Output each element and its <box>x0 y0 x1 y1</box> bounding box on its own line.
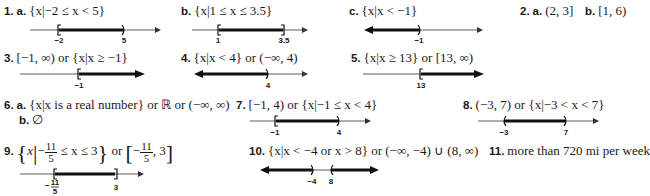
tick-label: 5 <box>122 36 127 45</box>
answer-6b: b.∅ <box>19 112 43 128</box>
problem-number: 8. <box>463 99 473 111</box>
problem-number: 7. <box>236 99 246 111</box>
number-line-3: −1 <box>20 66 150 90</box>
answer-text: [1, 6) <box>598 3 626 18</box>
part-label: a. <box>533 5 543 17</box>
answer-text: (−3, 7) or {x|−3 < x < 7} <box>476 97 605 112</box>
number-line-5: 13 <box>363 66 488 90</box>
answer-text: {x|x < −1} <box>362 3 418 18</box>
problem-number: 3. <box>4 52 14 64</box>
arrow-head <box>138 171 144 177</box>
negative-sign: − <box>37 143 44 158</box>
problem-number: 11. <box>489 145 504 157</box>
problem-number: 6. <box>4 99 14 111</box>
answer-text: ∅ <box>32 112 43 127</box>
tick-label: −1 <box>74 81 84 90</box>
answer-text: {x|x ≥ 13} or [13, ∞) <box>364 50 473 65</box>
tick-label: 3 <box>114 183 119 192</box>
tick-label-numerator: 11 <box>51 178 60 187</box>
tick-label: −3 <box>499 128 509 137</box>
interval-tail: , 3 <box>153 143 166 158</box>
answer-text: {x|x is a real number} or ℝ or (−∞, ∞) <box>29 97 229 112</box>
arrow-head-left <box>364 26 373 34</box>
answer-4: 4.{x|x < 4} or (−∞, 4) <box>181 50 298 66</box>
arrow-head-left <box>194 70 203 78</box>
tick-label: −1 <box>414 36 424 45</box>
problem-number: 10. <box>249 145 265 157</box>
answer-text: {x|x < −4 or x > 8} or (−∞, −4) ∪ (8, ∞) <box>268 143 478 158</box>
answer-6a: 6.a.{x|x is a real number} or ℝ or (−∞, … <box>4 97 230 113</box>
interval-close: ] <box>166 140 173 165</box>
tick-label: 4 <box>337 128 342 137</box>
answer-8: 8.(−3, 7) or {x|−3 < x < 7} <box>463 97 605 113</box>
part-label: b. <box>19 114 29 126</box>
inequality-tail: ≤ x ≤ 3 <box>57 143 97 158</box>
answer-1a: 1.a.{x|−2 ≤ x < 5} <box>4 3 105 19</box>
arrow-head <box>477 27 483 33</box>
problem-number: 2. <box>520 5 530 17</box>
arrow-head <box>302 27 308 33</box>
number-line-4: 4 <box>192 66 317 90</box>
number-line-9: − 11 5 3 <box>20 168 150 193</box>
part-label: b. <box>585 5 595 17</box>
tick-label: 13 <box>417 81 426 90</box>
tick-label: 1 <box>216 36 221 45</box>
answer-text: {x|x < 4} or (−∞, 4) <box>194 50 298 65</box>
problem-number: 1. <box>4 5 14 17</box>
number-line-10: −4 8 <box>258 160 383 186</box>
answer-7: 7.[−1, 4) or {x|−1 ≤ x < 4} <box>236 97 377 113</box>
tick-label: −2 <box>54 36 64 45</box>
part-label: a. <box>17 5 27 17</box>
tick-label: −1 <box>270 128 280 137</box>
answer-text: [−1, ∞) or {x|x ≥ −1} <box>17 50 128 65</box>
arrow-head-right <box>135 70 145 78</box>
fraction-denominator: 5 <box>140 153 153 164</box>
arrow-head <box>593 118 599 124</box>
interval-open: [ <box>125 140 132 165</box>
answer-10: 10.{x|x < −4 or x > 8} or (−∞, −4) ∪ (8,… <box>249 143 478 159</box>
tick-label-denominator: 5 <box>53 187 58 196</box>
problem-number: 9. <box>4 145 14 157</box>
fraction: 115 <box>140 141 153 164</box>
tick-label-negative-sign: − <box>45 181 50 190</box>
problem-number: 5. <box>351 52 361 64</box>
set-brace-open: { <box>17 140 28 165</box>
answer-1c: c.{x|x < −1} <box>349 3 417 19</box>
answer-2b: b.[1, 6) <box>585 3 626 19</box>
tick-label: −4 <box>307 177 317 186</box>
part-label: b. <box>181 5 191 17</box>
negative-sign: − <box>133 143 140 158</box>
arrow-head-right <box>370 166 379 174</box>
tick-label: 3.5 <box>278 36 290 45</box>
answer-text: more than 720 mi per week <box>507 143 650 158</box>
tick-label: 7 <box>564 128 569 137</box>
arrow-head-right <box>474 70 484 78</box>
answer-5: 5.{x|x ≥ 13} or [13, ∞) <box>351 50 473 66</box>
tick-label: 4 <box>266 81 271 90</box>
answer-text: {x|−2 ≤ x < 5} <box>29 3 105 18</box>
answer-text: (2, 3] <box>545 3 573 18</box>
answer-9: 9.{x|−115 ≤ x ≤ 3} or [−115, 3] <box>4 141 173 164</box>
or-word: or <box>108 143 125 158</box>
part-label: a. <box>17 99 27 111</box>
number-line-1c: −1 <box>362 20 487 44</box>
answer-text: [−1, 4) or {x|−1 ≤ x < 4} <box>249 97 378 112</box>
answer-11: 11.more than 720 mi per week <box>489 143 650 159</box>
fraction: 115 <box>45 141 58 164</box>
set-brace-close: } <box>98 140 109 165</box>
part-label: c. <box>349 5 359 17</box>
answer-3: 3.[−1, ∞) or {x|x ≥ −1} <box>4 50 128 66</box>
problem-number: 4. <box>181 52 191 64</box>
tick-label: 8 <box>329 177 334 186</box>
fraction-denominator: 5 <box>45 153 58 164</box>
number-line-1a: −2 5 <box>30 20 160 44</box>
number-line-1b: 1 3.5 <box>192 20 312 44</box>
arrow-head <box>365 118 371 124</box>
arrow-head-left <box>260 166 269 174</box>
number-line-8: −3 7 <box>478 113 603 137</box>
arrow-head <box>155 27 161 33</box>
answer-text: {x|1 ≤ x ≤ 3.5} <box>194 3 272 18</box>
arrow-head <box>302 71 308 77</box>
answer-2a: 2.a.(2, 3] <box>520 3 573 19</box>
answer-1b: b.{x|1 ≤ x ≤ 3.5} <box>181 3 272 19</box>
